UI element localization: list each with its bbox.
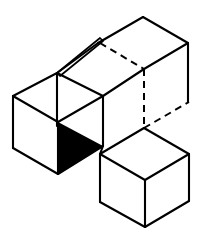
isometric-figure [0, 0, 202, 243]
isometric-drawing-canvas [0, 0, 202, 243]
